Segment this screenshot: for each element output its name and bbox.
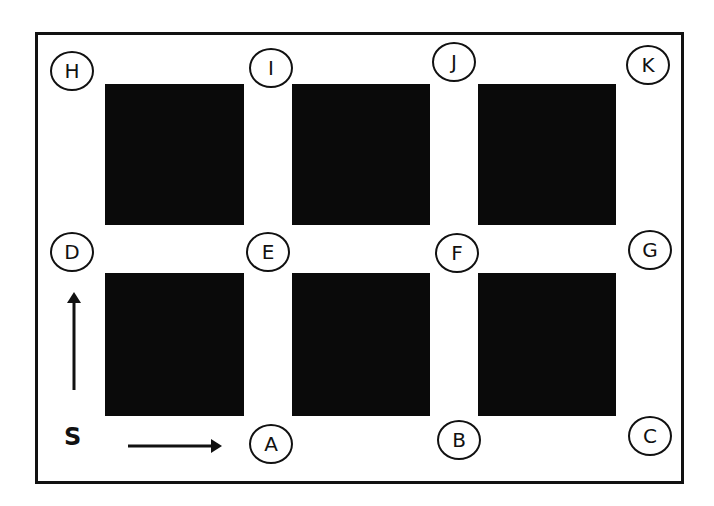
- direction-arrows: [0, 0, 714, 506]
- arrow-up-icon: [67, 292, 81, 390]
- arrow-right-icon: [128, 439, 222, 453]
